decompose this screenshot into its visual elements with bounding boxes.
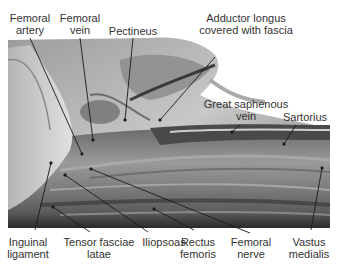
dissection-photo xyxy=(0,0,341,267)
label-sartorius: Sartorius xyxy=(280,111,330,123)
label-rectus-femoris: Rectus femoris xyxy=(176,236,220,260)
label-vastus-medialis: Vastus medialis xyxy=(284,236,334,260)
label-femoral-nerve: Femoral nerve xyxy=(227,236,275,260)
label-tensor-fasciae-latae: Tensor fasciae latae xyxy=(56,236,142,260)
label-great-saphenous-vein: Great saphenous vein xyxy=(203,98,289,122)
label-femoral-vein: Femoral vein xyxy=(57,12,103,36)
label-adductor-longus: Adductor longus covered with fascia xyxy=(196,12,296,36)
label-pectineus: Pectineus xyxy=(108,25,158,37)
label-femoral-artery: Femoral artery xyxy=(8,12,52,36)
label-inguinal-ligament: Inguinal ligament xyxy=(6,236,50,260)
